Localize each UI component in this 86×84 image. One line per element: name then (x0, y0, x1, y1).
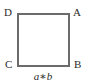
caption-operator-asterisk: ∗ (39, 70, 46, 82)
vertex-label-c: C (5, 59, 12, 70)
figure-caption: a∗b (0, 70, 86, 82)
vertex-label-a: A (73, 7, 81, 18)
caption-operand-right: b (47, 70, 53, 82)
vertex-label-d: D (4, 7, 12, 18)
geometry-figure: D A C B a∗b (0, 0, 86, 84)
square-shape (17, 13, 70, 67)
vertex-label-b: B (74, 59, 81, 70)
